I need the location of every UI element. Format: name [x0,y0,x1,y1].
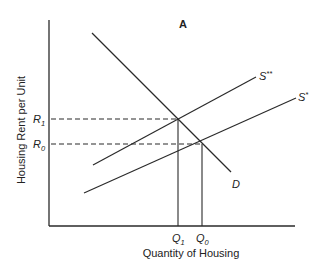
demand-label: D [232,178,240,190]
chart-title: A [179,18,187,30]
s-star-label: S* [298,90,309,103]
s-double-star-label: S** [259,69,273,82]
x-axis-title: Quantity of Housing [143,247,240,259]
r1-label: R1 [33,113,45,128]
demand-curve [92,33,231,172]
q0-label: Q0 [196,232,210,247]
q1-label: Q1 [172,232,185,247]
y-axis-title: Housing Rent per Unit [15,76,27,184]
supply-demand-chart: A D S** S* R1 R0 Q1 Q0 Quantity of Housi… [0,0,326,272]
r0-label: R0 [33,138,46,153]
